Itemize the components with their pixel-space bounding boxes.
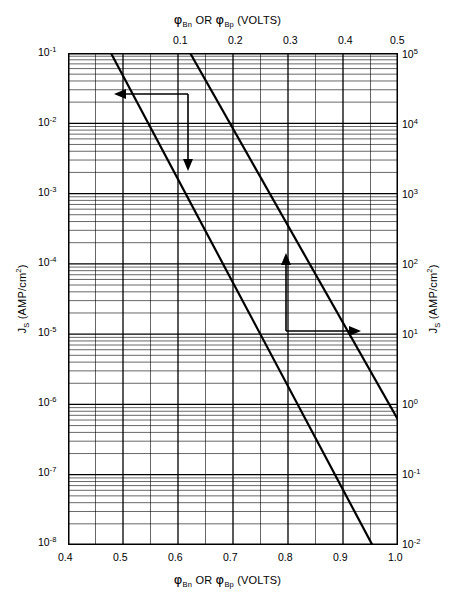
bottom-tick-label-5: 0.9	[333, 551, 348, 563]
right-axis-symbol: J	[427, 328, 439, 334]
right-axis-units: (AMP/cm	[427, 273, 439, 320]
top-axis-conjunction: OR	[195, 14, 212, 26]
bottom-tick-label-2: 0.6	[168, 551, 183, 563]
right-tick-exp-0: 5	[414, 47, 418, 56]
left-axis-units-close: )	[16, 264, 28, 268]
left-tick-base-3: 10	[38, 256, 50, 268]
bottom-axis-title: φBn OR φBp (VOLTS)	[0, 572, 455, 587]
left-tick-label-4: 10-5	[38, 326, 56, 338]
right-tick-base-2: 10	[402, 188, 414, 200]
bottom-axis-units: (VOLTS)	[237, 574, 281, 586]
left-axis-subscript: S	[22, 323, 31, 328]
top-axis-title: φBn OR φBp (VOLTS)	[0, 12, 455, 27]
bottom-axis-conjunction: OR	[195, 574, 212, 586]
right-tick-label-2: 103	[402, 188, 418, 200]
top-tick-label-2: 0.3	[283, 34, 298, 46]
right-tick-label-6: 10-1	[402, 468, 420, 480]
left-tick-exp-0: -1	[50, 45, 57, 54]
left-tick-base-1: 10	[38, 116, 50, 128]
bottom-tick-label-0: 0.4	[58, 551, 73, 563]
left-tick-label-3: 10-4	[38, 256, 56, 268]
top-axis-phi1-symbol: φ	[174, 12, 183, 27]
left-tick-label-1: 10-2	[38, 116, 56, 128]
left-tick-base-5: 10	[38, 396, 50, 408]
right-tick-base-0: 10	[402, 48, 414, 60]
right-tick-base-7: 10	[402, 538, 414, 550]
left-tick-exp-4: -5	[50, 325, 57, 334]
right-tick-exp-1: 4	[414, 117, 418, 126]
left-tick-base-0: 10	[38, 46, 50, 58]
left-axis-units-exponent: 2	[14, 268, 23, 272]
left-tick-base-7: 10	[38, 536, 50, 548]
left-axis-title: JS (AMP/cm2)	[16, 244, 28, 354]
top-tick-label-3: 0.4	[338, 34, 353, 46]
left-tick-exp-3: -4	[50, 255, 57, 264]
right-tick-base-5: 10	[402, 398, 414, 410]
right-axis-units-close: )	[427, 264, 439, 268]
right-tick-label-5: 100	[402, 398, 418, 410]
left-axis-units: (AMP/cm	[16, 273, 28, 320]
right-tick-label-3: 102	[402, 258, 418, 270]
right-axis-subscript: S	[433, 323, 442, 328]
left-tick-label-0: 10-1	[38, 46, 56, 58]
left-tick-base-4: 10	[38, 326, 50, 338]
right-tick-exp-4: 1	[414, 327, 418, 336]
right-tick-base-6: 10	[402, 468, 414, 480]
right-tick-exp-6: -1	[414, 467, 421, 476]
bottom-axis-phi1-subscript: Bn	[183, 580, 193, 589]
plot-svg	[68, 53, 398, 545]
left-tick-exp-6: -7	[50, 465, 57, 474]
bottom-tick-label-1: 0.5	[113, 551, 128, 563]
bottom-axis-phi1-symbol: φ	[174, 572, 183, 587]
right-tick-base-4: 10	[402, 328, 414, 340]
right-tick-exp-5: 0	[414, 397, 418, 406]
top-tick-label-1: 0.2	[228, 34, 243, 46]
right-tick-label-4: 101	[402, 328, 418, 340]
figure-saturation-current-vs-barrier-height: φBn OR φBp (VOLTS) 0.1 0.2 0.3 0.4 0.5 J…	[0, 0, 455, 609]
top-axis-phi1-subscript: Bn	[183, 20, 193, 29]
bottom-axis-phi2-subscript: Bp	[224, 580, 234, 589]
right-tick-exp-3: 2	[414, 257, 418, 266]
left-tick-label-7: 10-8	[38, 536, 56, 548]
left-axis-symbol: J	[16, 328, 28, 334]
right-tick-label-0: 105	[402, 48, 418, 60]
right-tick-label-1: 104	[402, 118, 418, 130]
top-axis-units: (VOLTS)	[237, 14, 281, 26]
left-tick-exp-2: -3	[50, 185, 57, 194]
left-tick-label-6: 10-7	[38, 466, 56, 478]
left-tick-exp-1: -2	[50, 115, 57, 124]
left-tick-label-2: 10-3	[38, 186, 56, 198]
right-tick-exp-7: -2	[414, 537, 421, 546]
top-tick-label-0: 0.1	[173, 34, 188, 46]
right-tick-base-1: 10	[402, 118, 414, 130]
top-tick-label-4: 0.5	[390, 34, 405, 46]
bottom-tick-label-4: 0.8	[278, 551, 293, 563]
right-tick-label-7: 10-2	[402, 538, 420, 550]
bottom-tick-label-3: 0.7	[223, 551, 238, 563]
right-axis-units-exponent: 2	[425, 268, 434, 272]
left-tick-exp-7: -8	[50, 535, 57, 544]
right-tick-base-3: 10	[402, 258, 414, 270]
left-tick-base-6: 10	[38, 466, 50, 478]
right-axis-title: JS (AMP/cm2)	[427, 244, 439, 354]
left-tick-base-2: 10	[38, 186, 50, 198]
right-tick-exp-2: 3	[414, 187, 418, 196]
left-tick-label-5: 10-6	[38, 396, 56, 408]
plot-area	[68, 53, 398, 545]
bottom-tick-label-6: 1.0	[388, 551, 403, 563]
left-tick-exp-5: -6	[50, 395, 57, 404]
top-axis-phi2-subscript: Bp	[224, 20, 234, 29]
